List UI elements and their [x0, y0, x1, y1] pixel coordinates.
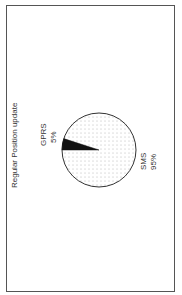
- sms-percent: 95%: [149, 154, 158, 170]
- gprs-label: GPRS: [39, 123, 48, 146]
- pie-chart: Regular Position update GPRS 5% SMS 95%: [0, 0, 182, 295]
- gprs-percent: 5%: [49, 131, 58, 143]
- chart-title: Regular Position update: [10, 102, 19, 188]
- sms-label: SMS: [139, 153, 148, 170]
